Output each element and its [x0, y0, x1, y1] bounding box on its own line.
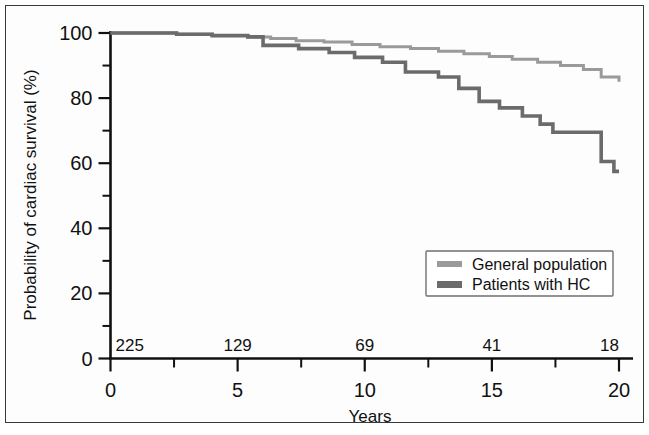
- survival-curve-patients-with-hc: [111, 33, 620, 171]
- x-axis-ticks: [111, 359, 620, 372]
- legend-label-patients-with-hc: Patients with HC: [472, 276, 590, 293]
- y-tick-label: 40: [70, 217, 92, 239]
- at-risk-number: 18: [600, 336, 619, 355]
- legend-swatch-general-population: [437, 261, 462, 267]
- y-tick-label: 80: [70, 87, 92, 109]
- x-tick-label: 10: [354, 379, 376, 401]
- at-risk-number: 225: [116, 336, 144, 355]
- legend: General population Patients with HC: [426, 251, 613, 296]
- x-tick-label: 20: [608, 379, 630, 401]
- legend-label-general-population: General population: [472, 256, 607, 273]
- y-axis-tick-labels: 020406080100: [59, 22, 92, 370]
- x-tick-label: 15: [481, 379, 503, 401]
- kaplan-meier-survival-chart: 020406080100 05101520 225129694118 Proba…: [0, 0, 649, 435]
- y-tick-label: 0: [81, 348, 92, 370]
- chart-axes: [109, 31, 633, 359]
- y-tick-label: 100: [59, 22, 92, 44]
- y-axis-ticks: [99, 33, 111, 359]
- figure-container: 020406080100 05101520 225129694118 Proba…: [0, 0, 649, 435]
- at-risk-numbers-row: 225129694118: [116, 336, 620, 355]
- y-tick-label: 60: [70, 152, 92, 174]
- legend-swatch-patients-with-hc: [437, 281, 462, 288]
- y-axis-title: Probability of cardiac survival (%): [21, 69, 40, 320]
- x-tick-label: 0: [105, 379, 116, 401]
- x-axis-tick-labels: 05101520: [105, 379, 630, 401]
- x-tick-label: 5: [232, 379, 243, 401]
- survival-curves: [111, 33, 620, 171]
- at-risk-number: 69: [355, 336, 374, 355]
- at-risk-number: 129: [223, 336, 251, 355]
- y-tick-label: 20: [70, 282, 92, 304]
- at-risk-number: 41: [482, 336, 501, 355]
- x-axis-title: Years: [349, 407, 392, 426]
